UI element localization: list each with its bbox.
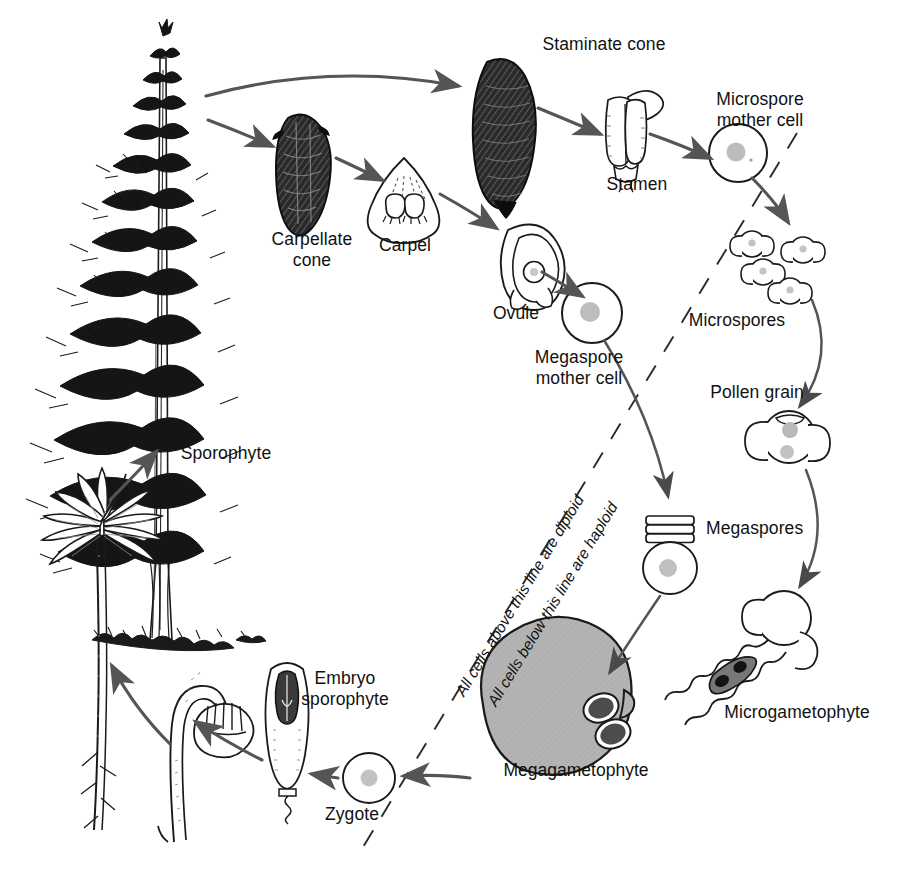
label-carpellate-cone: Carpellate cone (272, 229, 353, 270)
arrow-megaspores-to-megagametophyte (610, 596, 660, 672)
arrow-stamen-to-microspore-mother-cell (650, 134, 710, 158)
carpel (368, 158, 440, 243)
label-microspores: Microspores (689, 310, 785, 331)
label-megaspores: Megaspores (706, 518, 803, 539)
arrow-tree-to-carpellate-cone (208, 120, 272, 146)
microspore-mother-cell-figure (709, 124, 767, 182)
young-seedling-figure (42, 468, 164, 830)
arrow-germinating-seed-to-seedling (112, 666, 170, 744)
arrow-tree-to-staminate-cone (206, 76, 458, 96)
ovule-figure (501, 225, 565, 310)
label-microspore-mother-cell: Microspore mother cell (716, 89, 804, 130)
arrow-zygote-to-embryo-sporophyte (312, 774, 338, 778)
label-sporophyte: Sporophyte (181, 443, 272, 464)
carpellate-cone (272, 114, 331, 235)
zygote-figure (343, 753, 395, 803)
life-cycle-svg (0, 0, 897, 876)
pollen-grain-figure (745, 411, 830, 463)
label-carpel: Carpel (379, 235, 431, 256)
label-pollen-grain: Pollen grain (710, 382, 804, 403)
label-ovule: Ovule (493, 303, 539, 324)
label-megaspore-mother-cell: Megaspore mother cell (535, 347, 623, 388)
label-embryo-sporophyte: Embryo sporophyte (301, 668, 389, 709)
megaspore-mother-cell-figure (562, 283, 622, 343)
microspores-figure (730, 231, 825, 304)
arrow-microspore-mother-cell-to-microspores (752, 178, 788, 222)
germinating-seed-figure (158, 672, 254, 842)
arrow-staminate-cone-to-stamen (538, 108, 600, 134)
staminate-cone (473, 59, 536, 218)
diagram-canvas: Staminate cone Microspore mother cell St… (0, 0, 897, 876)
label-stamen: Stamen (607, 174, 668, 195)
arrow-megagametophyte-to-zygote (404, 775, 470, 778)
label-staminate-cone: Staminate cone (542, 34, 665, 55)
label-zygote: Zygote (325, 804, 379, 825)
label-microgametophyte: Microgametophyte (724, 702, 870, 723)
label-megagametophyte: Megagametophyte (504, 760, 649, 781)
megaspores-figure (643, 516, 697, 594)
arrow-carpellate-cone-to-carpel (336, 158, 382, 180)
